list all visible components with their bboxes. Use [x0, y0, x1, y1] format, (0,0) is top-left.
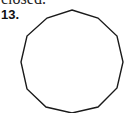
- dodecagon-shape: [21, 10, 123, 113]
- dodecagon-figure: [0, 0, 128, 113]
